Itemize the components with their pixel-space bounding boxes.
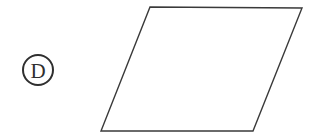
choice-label-letter: D <box>30 59 45 83</box>
figure-background <box>0 0 314 138</box>
figure-canvas: D <box>0 0 314 138</box>
figure-container: D <box>0 0 314 138</box>
